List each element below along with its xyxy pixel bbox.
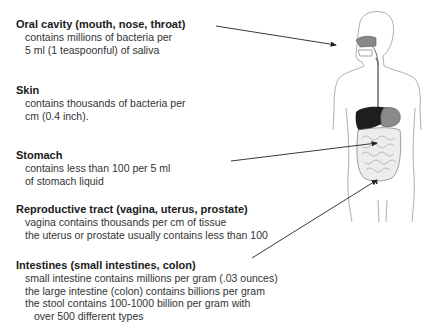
arrow-intestines	[252, 180, 377, 258]
oral-cavity-icon	[356, 36, 378, 66]
intestines-icon	[357, 128, 401, 184]
arrow-stomach	[231, 143, 377, 161]
stomach-organ-icon	[381, 108, 401, 127]
body-diagram	[0, 0, 437, 335]
esophagus-icon	[376, 58, 378, 112]
arrow-oral-cavity	[216, 26, 336, 45]
